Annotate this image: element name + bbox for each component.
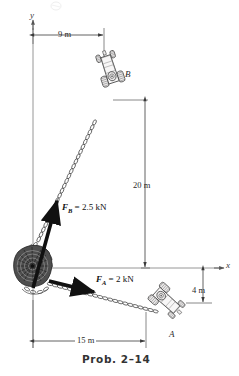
force-label-b: FB = 2.5 kN [62, 203, 106, 214]
tractor-a [147, 281, 188, 322]
tractor-b [93, 47, 126, 87]
force-unit-b: kN [95, 202, 106, 212]
point-label-a: A [169, 330, 175, 339]
problem-figure [0, 0, 239, 376]
force-equals-b: = [75, 202, 80, 212]
dimension-label-20m: 20 m [133, 181, 150, 190]
dimension-label-15m: 15 m [75, 336, 96, 345]
y-axis-label: y [30, 11, 34, 20]
chain-a [47, 282, 159, 314]
point-label-b: B [125, 70, 131, 79]
force-magnitude-b: 2.5 [82, 202, 93, 212]
force-magnitude-a: 2 [116, 274, 121, 284]
x-axis-label: x [226, 261, 230, 270]
dimension-label-4m: 4 m [192, 286, 205, 295]
force-vector-a [49, 281, 94, 292]
force-unit-a: kN [123, 274, 134, 284]
figure-caption: Prob. 2–14 [82, 353, 150, 365]
scan-artifact [51, 2, 61, 10]
force-subscript-a: A [102, 279, 106, 286]
dimension-label-9m: 9 m [58, 30, 71, 39]
force-subscript-b: B [68, 207, 72, 214]
force-label-a: FA = 2 kN [96, 275, 134, 286]
force-equals-a: = [109, 274, 114, 284]
chain-b [36, 119, 97, 242]
